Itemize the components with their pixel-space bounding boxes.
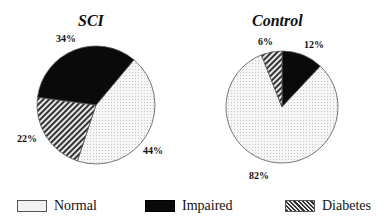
legend-label-normal: Normal: [54, 198, 97, 214]
impaired-swatch: [145, 200, 175, 212]
sci-normal-pct: 44%: [143, 145, 163, 156]
legend-item-normal: Normal: [17, 196, 97, 216]
normal-swatch: [17, 200, 47, 212]
control-pie: [226, 51, 338, 163]
control-normal-pct: 82%: [249, 170, 269, 181]
sci-pie: [37, 46, 155, 164]
legend-item-diabetes: Diabetes: [285, 196, 371, 216]
control-diabetes-pct: 6%: [258, 36, 273, 47]
sci-diabetes-pct: 22%: [17, 133, 37, 144]
control-title: Control: [252, 12, 303, 30]
sci-impaired-pct: 34%: [56, 33, 76, 44]
legend-label-impaired: Impaired: [182, 198, 233, 214]
legend-item-impaired: Impaired: [145, 196, 233, 216]
legend-label-diabetes: Diabetes: [322, 198, 371, 214]
control-impaired-pct: 12%: [304, 39, 324, 50]
diabetes-swatch: [285, 200, 315, 212]
sci-title: SCI: [78, 12, 104, 30]
